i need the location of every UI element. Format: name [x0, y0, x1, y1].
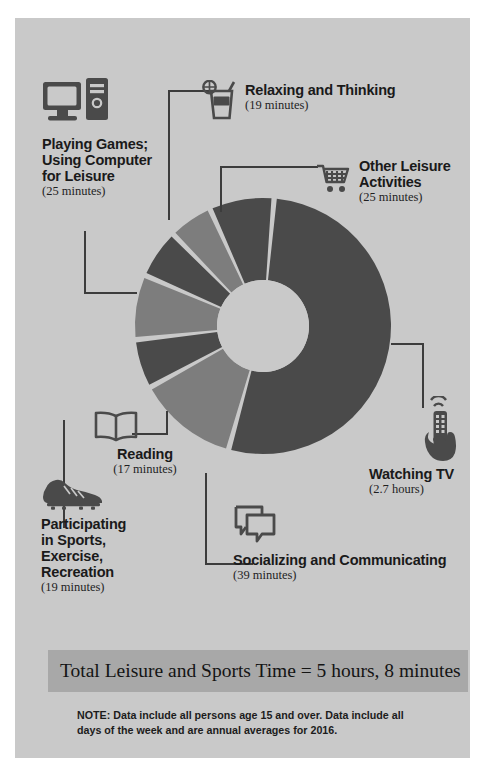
note-line-2: days of the week and are annual averages… [77, 723, 447, 738]
callout-title-line1: Participating [41, 516, 211, 532]
soccer-cleat-icon [41, 478, 107, 514]
callout-title-line3: Exercise, [41, 548, 211, 564]
callout-title-line2: in Sports, [41, 532, 211, 548]
callout-title-line4: Recreation [41, 564, 211, 580]
callout-value: (2.7 hours) [369, 482, 486, 497]
callout-value: (17 minutes) [75, 462, 215, 477]
callout-title-line1: Playing Games; [42, 136, 212, 152]
total-time-text: Total Leisure and Sports Time = 5 hours,… [48, 660, 461, 682]
callout-title-line3: for Leisure [42, 168, 212, 184]
callout-title-line1: Other Leisure [359, 158, 486, 174]
callout-title: Watching TV [369, 466, 486, 482]
callout-title-line2: Activities [359, 174, 486, 190]
leisure-time-donut-chart [131, 194, 395, 458]
drink-glass-icon [201, 80, 237, 124]
callout-value: (25 minutes) [42, 184, 212, 199]
note-line-1: NOTE: Data include all persons age 15 an… [77, 708, 447, 723]
connector-playing-games [84, 231, 137, 294]
callout-title: Reading [75, 446, 215, 462]
callout-title-line2: Using Computer [42, 152, 212, 168]
donut-chart-svg [131, 194, 395, 458]
callout-title: Relaxing and Thinking [245, 82, 485, 98]
donut-center-hole [217, 280, 309, 372]
speech-bubbles-icon [233, 504, 281, 550]
open-book-icon [93, 410, 139, 446]
infographic-panel: Relaxing and Thinking (19 minutes) Othe [15, 18, 470, 758]
shopping-cart-icon [314, 162, 352, 198]
total-time-banner: Total Leisure and Sports Time = 5 hours,… [48, 650, 468, 692]
hand-remote-control-icon [419, 396, 461, 466]
callout-value: (19 minutes) [245, 98, 485, 113]
desktop-computer-icon [42, 76, 116, 135]
callout-title: Socializing and Communicating [233, 552, 486, 568]
infographic-page: Relaxing and Thinking (19 minutes) Othe [0, 0, 486, 771]
callout-value: (19 minutes) [41, 580, 211, 595]
connector-other-leisure [220, 166, 318, 212]
source-note: NOTE: Data include all persons age 15 an… [77, 708, 447, 738]
callout-value: (25 minutes) [359, 190, 486, 205]
callout-value: (39 minutes) [233, 568, 486, 583]
